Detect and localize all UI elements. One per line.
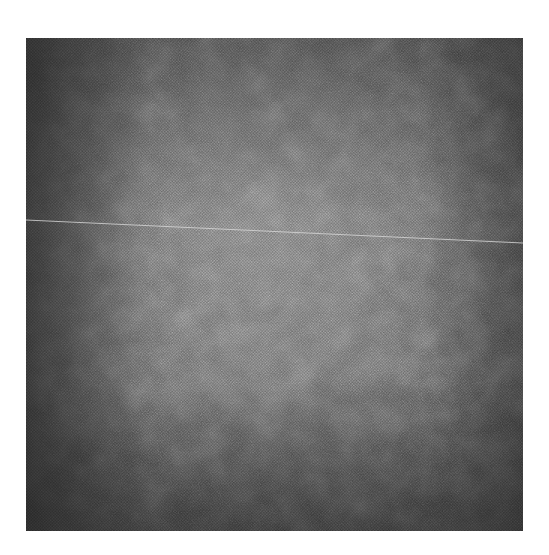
texture-photo bbox=[26, 38, 523, 531]
halftone-screen bbox=[26, 38, 523, 531]
